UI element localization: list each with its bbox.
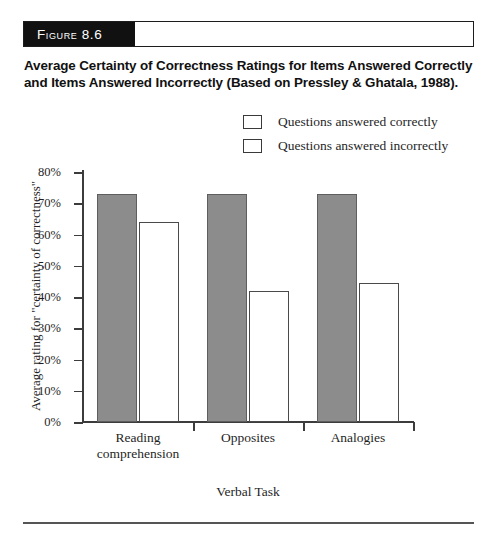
y-tick: 30% bbox=[74, 328, 83, 330]
y-tick: 10% bbox=[74, 391, 83, 393]
y-tick: 70% bbox=[74, 203, 83, 205]
y-tick: 40% bbox=[74, 297, 83, 299]
x-tick bbox=[413, 422, 415, 431]
bar-correct bbox=[97, 194, 137, 422]
y-axis-title-wrap: Average rating for "certainty of correct… bbox=[44, 0, 45, 1]
y-tick-label: 0% bbox=[44, 415, 61, 430]
figure-page: Figure 8.6 Average Certainty of Correctn… bbox=[0, 0, 496, 535]
x-tick bbox=[303, 422, 305, 431]
y-tick: 0% bbox=[74, 422, 83, 424]
x-category-label: Readingcomprehension bbox=[97, 430, 179, 462]
plot-area: 0%10%20%30%40%50%60%70%80% bbox=[83, 172, 413, 422]
bar-incorrect bbox=[139, 222, 179, 422]
bar-incorrect bbox=[249, 291, 289, 422]
bottom-divider bbox=[23, 522, 474, 524]
bar-correct bbox=[207, 194, 247, 422]
y-tick: 60% bbox=[74, 235, 83, 237]
bar-incorrect bbox=[359, 283, 399, 422]
y-tick: 50% bbox=[74, 266, 83, 268]
x-category-label: Analogies bbox=[331, 430, 386, 446]
y-tick-label: 80% bbox=[38, 165, 61, 180]
y-tick: 20% bbox=[74, 360, 83, 362]
x-tick bbox=[193, 422, 195, 431]
bar-chart: 0%10%20%30%40%50%60%70%80% Average ratin… bbox=[0, 0, 496, 535]
x-axis-title: Verbal Task bbox=[0, 484, 496, 500]
y-axis-title: Average rating for "certainty of correct… bbox=[28, 181, 44, 411]
y-tick: 80% bbox=[74, 172, 83, 174]
bar-correct bbox=[317, 194, 357, 422]
x-category-label: Opposites bbox=[221, 430, 275, 446]
